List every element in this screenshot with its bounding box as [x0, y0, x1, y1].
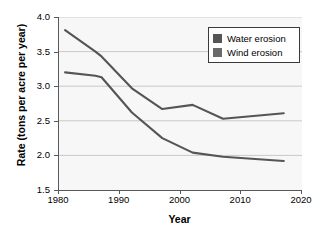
legend-label: Wind erosion	[227, 47, 282, 58]
x-tick-label-1980: 1980	[38, 194, 78, 205]
x-tick-label-1990: 1990	[99, 194, 139, 205]
legend-swatch-icon	[213, 48, 222, 57]
x-tick-label-2020: 2020	[281, 194, 321, 205]
legend-item-water-erosion: Water erosion	[213, 31, 295, 45]
erosion-rate-line-chart: Rate (tons per acre per year) 4.0 3.5 3.…	[0, 0, 327, 237]
x-tick-label-2010: 2010	[220, 194, 260, 205]
legend-label: Water erosion	[227, 33, 286, 44]
y-axis-title: Rate (tons per acre per year)	[14, 0, 28, 190]
legend-swatch-icon	[213, 34, 222, 43]
chart-legend: Water erosion Wind erosion	[208, 27, 300, 63]
y-tick-label-4.0: 4.0	[24, 12, 50, 22]
x-axis-title: Year	[58, 213, 301, 225]
y-tick-label-2.5: 2.5	[24, 116, 50, 126]
y-tick-label-3.5: 3.5	[24, 47, 50, 57]
y-tick-label-3.0: 3.0	[24, 81, 50, 91]
legend-item-wind-erosion: Wind erosion	[213, 45, 295, 59]
y-tick-label-2.0: 2.0	[24, 150, 50, 160]
x-tick-label-2000: 2000	[160, 194, 200, 205]
